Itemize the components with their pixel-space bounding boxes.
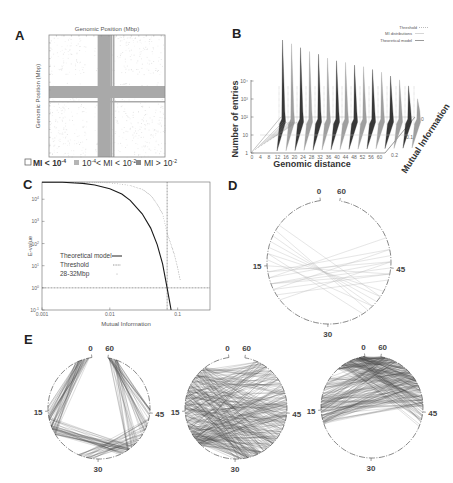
c-data-point (130, 185, 131, 186)
heatmap-cell (153, 61, 154, 62)
heatmap-cell (69, 143, 70, 144)
heatmap-cell (130, 37, 131, 38)
b-xtick-label: 56 (368, 154, 374, 160)
c-data-point (149, 194, 150, 195)
heatmap-cell (65, 153, 66, 154)
circos-tick-label: 60 (378, 343, 387, 352)
heatmap-cell (126, 131, 127, 132)
heatmap-cell (163, 113, 164, 114)
heatmap-cell (54, 145, 55, 146)
heatmap-cell (122, 84, 123, 85)
panel-letter-c: C (23, 177, 33, 192)
c-data-point (145, 191, 146, 192)
c-data-point (161, 212, 162, 213)
heatmap-cell (132, 126, 133, 127)
heatmap-cell (145, 152, 146, 153)
panel-a-xlabel: Genomic Position (Mbp) (75, 26, 139, 32)
circos-chord (279, 225, 380, 297)
heatmap-cell (69, 145, 70, 146)
heatmap-cell (158, 82, 159, 83)
heatmap-cell (142, 106, 143, 107)
heatmap-cell (141, 106, 142, 107)
heatmap-cell (140, 129, 141, 130)
heatmap-cell (65, 123, 66, 124)
heatmap-cell (134, 38, 135, 39)
heatmap-cell (54, 152, 55, 153)
heatmap-cell (142, 107, 143, 108)
heatmap-cell (68, 58, 69, 59)
heatmap-cell (139, 56, 140, 57)
b-ztick-label: 0.2 (391, 152, 398, 158)
heatmap-cell (63, 58, 64, 59)
heatmap-cell (157, 70, 158, 71)
heatmap-cell (79, 38, 80, 39)
circos-d: 015304560 (253, 187, 406, 339)
heatmap-cell (65, 49, 66, 50)
heatmap-cell (155, 112, 156, 113)
heatmap-cell (147, 48, 148, 49)
heatmap-cell (74, 133, 75, 134)
c-data-point (100, 182, 101, 183)
b-yticks: 11010²10³10⁴ (240, 78, 253, 156)
heatmap-cell (62, 110, 63, 111)
heatmap-cell (141, 51, 142, 52)
heatmap-cell (164, 48, 165, 49)
heatmap-cell (69, 120, 70, 121)
heatmap-cell (73, 150, 74, 151)
legend-threshold: Threshold (399, 25, 417, 30)
heatmap-cell (120, 143, 121, 144)
heatmap-cell (50, 65, 51, 66)
panel-letter-b: B (232, 26, 241, 41)
c-threshold (42, 182, 210, 310)
heatmap-cell (86, 127, 87, 128)
heatmap-cell (131, 54, 132, 55)
c-frame (42, 182, 210, 310)
heatmap-cell (66, 49, 67, 50)
c-ylabel: E-value (27, 235, 33, 256)
circos-tick-label: 30 (93, 465, 102, 474)
heatmap-cell (122, 52, 123, 53)
heatmap-cell (143, 117, 144, 118)
heatmap-cell (61, 70, 62, 71)
heatmap-cell (62, 120, 63, 121)
circos-tick-label: 60 (242, 344, 251, 353)
c-data-point (170, 243, 171, 244)
c-ytick-label: 104 (31, 196, 39, 202)
c-data-point (150, 195, 151, 196)
c-data-point (174, 256, 175, 257)
c-data-point (162, 213, 163, 214)
panel-c: C 10-1100101102103104 0.0010.010.1 E-val… (23, 177, 210, 327)
heatmap-cell (132, 140, 133, 141)
heatmap-cell (52, 115, 53, 116)
heatmap-cell (161, 59, 162, 60)
heatmap-cell (133, 117, 134, 118)
heatmap-cell (155, 133, 156, 134)
heatmap-cell (129, 51, 130, 52)
circos-tick-label: 15 (307, 407, 316, 416)
c-data-point (176, 263, 177, 264)
heatmap-cell (149, 107, 150, 108)
c-data-point (122, 184, 123, 185)
heatmap-cell (150, 39, 151, 40)
b-peak (340, 62, 349, 149)
heatmap-cell (57, 148, 58, 149)
heatmap-cell (67, 74, 68, 75)
heatmap-cell (74, 140, 75, 141)
heatmap-cell (143, 48, 144, 49)
heatmap-cell (54, 38, 55, 39)
c-data-point (157, 204, 158, 205)
heatmap-cell (68, 40, 69, 41)
heatmap-cell (66, 136, 67, 137)
c-data-point (174, 253, 175, 254)
c-data-point (112, 183, 113, 184)
heatmap-cell (129, 100, 130, 101)
heatmap-cell (126, 45, 127, 46)
heatmap-cell (64, 52, 65, 53)
heatmap-cell (124, 109, 125, 110)
heatmap-cell (140, 54, 141, 55)
b-peaks (255, 40, 421, 151)
c-data-point (74, 182, 75, 183)
heatmap-cell (132, 38, 133, 39)
c-data-point (92, 182, 93, 183)
heatmap-cell (60, 51, 61, 52)
